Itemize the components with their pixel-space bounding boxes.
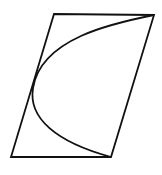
parabolic-arc [32,15,154,157]
diagram-svg [0,0,162,175]
diagram-canvas [0,0,162,175]
